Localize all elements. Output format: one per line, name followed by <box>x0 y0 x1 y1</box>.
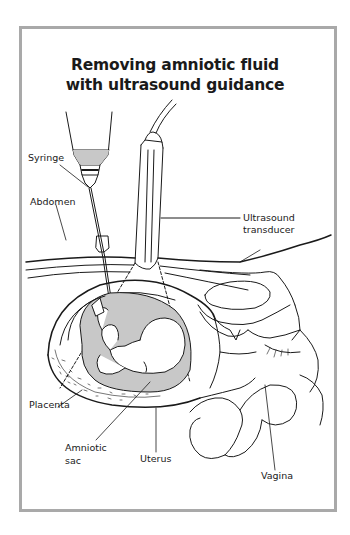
label-vagina: Vagina <box>261 470 293 482</box>
amniocentesis-illustration <box>0 0 350 535</box>
label-abdomen: Abdomen <box>30 196 76 208</box>
label-syringe: Syringe <box>28 152 64 164</box>
label-amniotic-line-1: Amniotic <box>65 442 107 454</box>
label-ultrasound-line-2: transducer <box>243 224 294 236</box>
pelvis-illustration <box>190 270 323 459</box>
label-uterus: Uterus <box>140 453 171 465</box>
abdomen-contour <box>26 235 331 290</box>
label-ultrasound-line-1: Ultrasound <box>243 212 295 224</box>
label-amniotic-line-2: sac <box>65 455 81 467</box>
syringe-illustration <box>66 112 114 318</box>
label-placenta: Placenta <box>29 399 70 411</box>
